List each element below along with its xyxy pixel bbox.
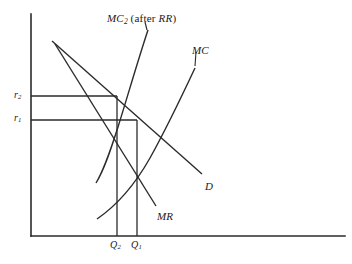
curve-label-d-text: D xyxy=(205,180,213,192)
curve-label-d: D xyxy=(205,181,213,192)
price-label-r2-sub: 2 xyxy=(18,93,21,100)
curve-label-mr-text: MR xyxy=(157,210,173,222)
curve-label-mc2-text: MC xyxy=(107,12,124,24)
economics-diagram: r2 r1 Q2 Q1 MC2 (after RR) MC D MR xyxy=(0,0,352,264)
demand-curve xyxy=(52,41,202,174)
quantity-label-q2-sub: 2 xyxy=(117,243,120,250)
curve-label-mr: MR xyxy=(157,211,173,222)
marginal-cost-2-curve xyxy=(96,30,148,183)
price-label-r2: r2 xyxy=(14,90,22,101)
diagram-canvas xyxy=(0,0,352,264)
price-label-r1-sub: 1 xyxy=(18,116,21,123)
curve-label-mc-text: MC xyxy=(192,44,209,56)
quantity-label-q1-sub: 1 xyxy=(138,243,141,250)
curve-label-mc2-tail-end: ) xyxy=(172,12,176,24)
marginal-revenue-curve xyxy=(55,44,156,206)
price-label-r1: r1 xyxy=(14,113,22,124)
marginal-cost-curve xyxy=(97,68,195,219)
quantity-label-q1: Q1 xyxy=(131,240,142,251)
curve-label-mc: MC xyxy=(192,45,209,56)
curve-label-mc2-rr: RR xyxy=(159,12,173,24)
curve-label-mc2-tail: (after xyxy=(128,12,159,24)
quantity-label-q2: Q2 xyxy=(110,240,121,251)
curve-label-mc2: MC2 (after RR) xyxy=(107,13,176,25)
